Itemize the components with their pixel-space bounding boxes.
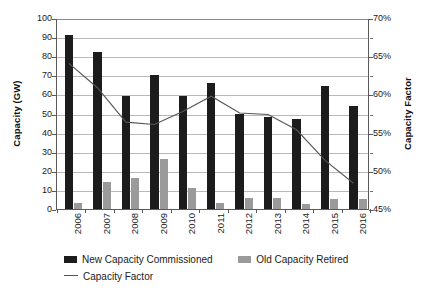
legend-swatch-new-icon xyxy=(64,256,77,263)
x-axis-labels: 2006200720082009201020112012201320142015… xyxy=(56,213,369,253)
y-tick-mark-right-minor xyxy=(370,191,373,192)
x-axis-label: 2008 xyxy=(129,213,140,234)
x-axis-label: 2013 xyxy=(272,213,283,234)
legend-item-capacity-factor: Capacity Factor xyxy=(64,270,153,282)
x-axis-label: 2009 xyxy=(158,213,169,234)
y-tick-label-left: 20 xyxy=(12,166,52,176)
legend-item-new-capacity: New Capacity Commissioned xyxy=(64,253,213,265)
y-tick-label-left: 10 xyxy=(12,185,52,195)
y-tick-mark-right-minor xyxy=(370,38,373,39)
x-axis-label: 2011 xyxy=(215,213,226,233)
y-tick-label-left: 80 xyxy=(12,51,52,61)
legend-label-capacity-factor: Capacity Factor xyxy=(83,271,153,282)
y-tick-mark-right-minor xyxy=(370,115,373,116)
y-tick-label-right: 70% xyxy=(373,13,413,23)
x-axis-label: 2010 xyxy=(186,213,197,234)
legend-row-1: New Capacity Commissioned Old Capacity R… xyxy=(64,253,348,267)
chart-legend: New Capacity Commissioned Old Capacity R… xyxy=(64,253,414,287)
x-tick-mark xyxy=(370,209,371,213)
x-axis-label: 2015 xyxy=(329,213,340,234)
y-tick-label-left: 60 xyxy=(12,89,52,99)
plot-area xyxy=(56,19,369,210)
y-axis-left: 1009080706050403020100 xyxy=(8,0,52,289)
y-tick-label-left: 70 xyxy=(12,70,52,80)
y-tick-label-right: 65% xyxy=(373,51,413,61)
y-tick-label-left: 100 xyxy=(12,13,52,23)
y-tick-label-left: 90 xyxy=(12,32,52,42)
x-axis-label: 2012 xyxy=(243,213,254,234)
legend-item-old-capacity: Old Capacity Retired xyxy=(238,253,348,265)
y-tick-label-left: 40 xyxy=(12,128,52,138)
legend-label-new: New Capacity Commissioned xyxy=(82,254,213,265)
y-tick-label-left: 50 xyxy=(12,109,52,119)
x-axis-label: 2007 xyxy=(101,213,112,234)
capacity-chart: Capacity (GW) Capacity Factor 1009080706… xyxy=(0,0,422,289)
x-axis-label: 2016 xyxy=(357,213,368,234)
legend-label-old: Old Capacity Retired xyxy=(256,254,348,265)
y-axis-right: 70%65%60%55%50%45% xyxy=(373,0,417,289)
x-axis-label: 2006 xyxy=(72,213,83,234)
y-tick-mark-right-minor xyxy=(370,76,373,77)
legend-row-2: Capacity Factor xyxy=(64,270,153,284)
legend-swatch-line-icon xyxy=(64,275,78,276)
capacity-factor-polyline xyxy=(69,63,354,183)
legend-swatch-old-icon xyxy=(238,256,251,263)
y-tick-label-right: 50% xyxy=(373,166,413,176)
capacity-factor-line xyxy=(57,19,370,210)
y-tick-label-left: 30 xyxy=(12,147,52,157)
y-tick-label-right: 45% xyxy=(373,204,413,214)
y-tick-mark-right-minor xyxy=(370,153,373,154)
y-tick-label-right: 60% xyxy=(373,89,413,99)
y-tick-label-right: 55% xyxy=(373,128,413,138)
y-tick-label-left: 0 xyxy=(12,204,52,214)
x-axis-label: 2014 xyxy=(300,213,311,234)
y-tick-mark-left xyxy=(52,210,56,211)
